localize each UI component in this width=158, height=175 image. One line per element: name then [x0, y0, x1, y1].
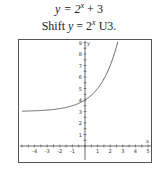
- x-tick-label: -1: [70, 148, 75, 154]
- y-tick-label: 9: [79, 40, 82, 46]
- function-curve: [22, 42, 118, 111]
- y-tick-label: 8: [79, 51, 82, 57]
- x-tick-label: 3: [121, 148, 124, 154]
- y-tick-label: 1: [79, 132, 82, 138]
- y-tick-label: 6: [79, 74, 82, 80]
- y-tick-label: 3: [79, 109, 82, 115]
- y-tick-label: 5: [79, 86, 82, 92]
- y-axis-label: y: [87, 40, 90, 47]
- x-tick-label: 4: [134, 148, 137, 154]
- x-tick-label: 2: [109, 148, 112, 154]
- graph: -4-3-2-112345123456789yx: [0, 0, 158, 175]
- x-tick-label: -4: [32, 148, 37, 154]
- x-tick-label: 5: [146, 148, 149, 154]
- y-tick-label: 7: [79, 63, 82, 69]
- x-tick-label: -3: [45, 148, 50, 154]
- x-tick-label: 1: [96, 148, 99, 154]
- y-tick-label: 2: [79, 120, 82, 126]
- x-tick-label: -2: [57, 148, 62, 154]
- x-axis-label: x: [146, 138, 149, 144]
